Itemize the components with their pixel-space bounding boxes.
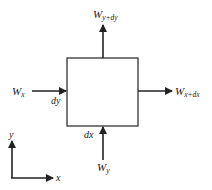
label-w-x-dx: Wx+dx <box>175 85 200 99</box>
axis-x-label: x <box>55 172 61 183</box>
label-w-y-dy: Wy+dy <box>93 8 118 22</box>
element-box <box>67 58 138 126</box>
axis-y-label: y <box>8 129 14 140</box>
label-w-y: Wy <box>97 161 110 175</box>
label-dx: dx <box>84 129 94 140</box>
label-dy: dy <box>51 95 61 106</box>
flux-diagram: Wx Wx+dx Wy+dy Wy dy dx y x <box>0 0 212 190</box>
label-w-x: Wx <box>12 85 25 99</box>
